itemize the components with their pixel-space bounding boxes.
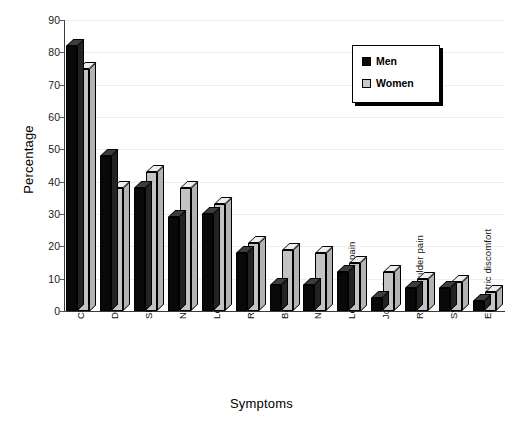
bar-men bbox=[66, 46, 77, 311]
y-tick-label: 30 bbox=[30, 209, 60, 219]
bar-group bbox=[270, 20, 300, 311]
bar-men bbox=[168, 217, 179, 311]
bar-men bbox=[303, 285, 314, 311]
bar-group bbox=[168, 20, 198, 311]
bar-men bbox=[270, 285, 281, 311]
bar-front-face bbox=[371, 298, 382, 311]
y-tick-mark bbox=[60, 182, 65, 183]
bar-front-face bbox=[473, 301, 484, 311]
bar-side-face bbox=[157, 165, 164, 311]
y-tick-mark bbox=[60, 214, 65, 215]
bar-side-face bbox=[123, 181, 130, 311]
legend-swatch-women-icon bbox=[362, 79, 371, 88]
bar-men bbox=[100, 156, 111, 311]
bar-side-face bbox=[348, 265, 355, 311]
y-tick-mark bbox=[60, 117, 65, 118]
bar-group bbox=[236, 20, 266, 311]
y-tick-mark bbox=[60, 52, 65, 53]
bar-chart: Percentage 0102030405060708090 Symptoms … bbox=[0, 0, 523, 422]
bar-group bbox=[202, 20, 232, 311]
bar-front-face bbox=[100, 156, 111, 311]
bar-side-face bbox=[111, 149, 118, 311]
bar-front-face bbox=[303, 285, 314, 311]
legend: Men Women bbox=[352, 45, 440, 103]
legend-item-men: Men bbox=[362, 55, 397, 67]
y-tick-mark bbox=[60, 311, 65, 312]
y-tick-mark bbox=[60, 149, 65, 150]
y-tick-label: 10 bbox=[30, 274, 60, 284]
y-tick-mark bbox=[60, 279, 65, 280]
bar-side-face bbox=[326, 246, 333, 311]
y-tick-label: 70 bbox=[30, 80, 60, 90]
bar-men bbox=[202, 214, 213, 311]
bar-men bbox=[439, 288, 450, 311]
y-tick-label: 20 bbox=[30, 241, 60, 251]
bar-men bbox=[405, 288, 416, 311]
y-tick-label: 0 bbox=[30, 306, 60, 316]
bar-side-face bbox=[145, 181, 152, 311]
bar-front-face bbox=[66, 46, 77, 311]
y-tick-label: 50 bbox=[30, 144, 60, 154]
bar-side-face bbox=[179, 210, 186, 311]
bar-front-face bbox=[270, 285, 281, 311]
bar-front-face bbox=[405, 288, 416, 311]
legend-swatch-men-icon bbox=[362, 57, 371, 66]
bar-men bbox=[134, 188, 145, 311]
y-tick-label: 60 bbox=[30, 112, 60, 122]
bar-group bbox=[303, 20, 333, 311]
bar-side-face bbox=[191, 181, 198, 311]
bar-men bbox=[236, 253, 247, 311]
bar-side-face bbox=[225, 198, 232, 311]
y-tick-label: 40 bbox=[30, 177, 60, 187]
legend-item-women: Women bbox=[362, 77, 414, 89]
bar-front-face bbox=[439, 288, 450, 311]
bar-side-face bbox=[293, 243, 300, 311]
y-tick-mark bbox=[60, 246, 65, 247]
y-tick-label: 90 bbox=[30, 15, 60, 25]
bar-side-face bbox=[259, 236, 266, 311]
bar-side-face bbox=[394, 265, 401, 311]
bar-group bbox=[134, 20, 164, 311]
bar-side-face bbox=[360, 256, 367, 311]
y-tick-mark bbox=[60, 20, 65, 21]
bar-front-face bbox=[236, 253, 247, 311]
bar-side-face bbox=[247, 246, 254, 311]
legend-label-men: Men bbox=[376, 55, 397, 67]
bar-side-face bbox=[213, 207, 220, 311]
bar-group bbox=[439, 20, 469, 311]
bar-group bbox=[66, 20, 96, 311]
bar-men bbox=[473, 301, 484, 311]
bar-group bbox=[100, 20, 130, 311]
bar-front-face bbox=[134, 188, 145, 311]
y-tick-mark bbox=[60, 85, 65, 86]
bar-side-face bbox=[89, 62, 96, 311]
y-tick-label: 80 bbox=[30, 47, 60, 57]
bar-side-face bbox=[77, 39, 84, 311]
bar-front-face bbox=[168, 217, 179, 311]
bar-front-face bbox=[337, 272, 348, 311]
bar-front-face bbox=[202, 214, 213, 311]
bar-men bbox=[337, 272, 348, 311]
y-axis-line bbox=[64, 20, 65, 312]
x-axis-title: Symptoms bbox=[0, 396, 523, 411]
bar-men bbox=[371, 298, 382, 311]
legend-label-women: Women bbox=[376, 77, 414, 89]
